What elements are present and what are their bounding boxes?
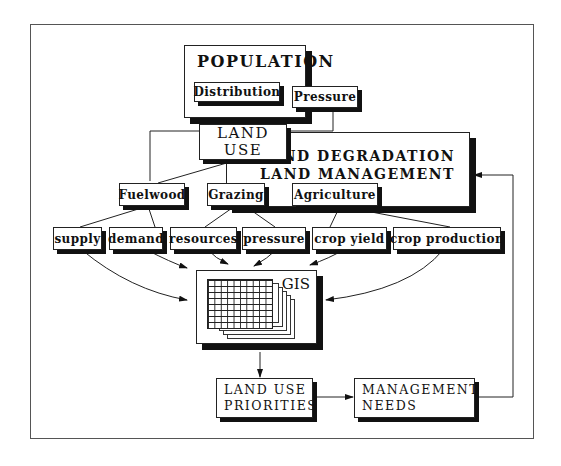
pressure-box: Pressure: [292, 86, 358, 108]
gis-box: GIS: [196, 270, 317, 344]
factor-pressure: pressure: [242, 227, 306, 250]
factor-resources: resources: [170, 227, 237, 250]
land-use-box: LAND USE: [199, 124, 287, 160]
category-agriculture: Agriculture: [292, 183, 378, 206]
gis-label: GIS: [282, 275, 310, 293]
factor-crop-yield: crop yield: [312, 227, 387, 250]
factor-supply: supply: [53, 227, 102, 250]
raster-grid-icon: [207, 279, 273, 329]
factor-crop-production: crop production: [393, 227, 501, 250]
land-degradation-label: LAND DEGRADATION: [259, 147, 455, 165]
distribution-box: Distribution: [194, 82, 280, 102]
factor-demand: demand: [109, 227, 163, 250]
pressure-label: Pressure: [294, 90, 356, 104]
land-use-line2: USE: [224, 142, 262, 159]
distribution-label: Distribution: [194, 85, 281, 99]
population-title: POPULATION: [197, 52, 335, 71]
land-use-priorities-box: LAND USE PRIORITIES: [216, 378, 313, 418]
category-fuelwood: Fuelwood: [119, 183, 185, 206]
land-management-label: LAND MANAGEMENT: [259, 165, 455, 183]
management-needs-box: MANAGEMENT NEEDS: [354, 378, 475, 418]
land-use-line1: LAND: [217, 125, 269, 142]
category-grazing: Grazing: [207, 183, 265, 206]
